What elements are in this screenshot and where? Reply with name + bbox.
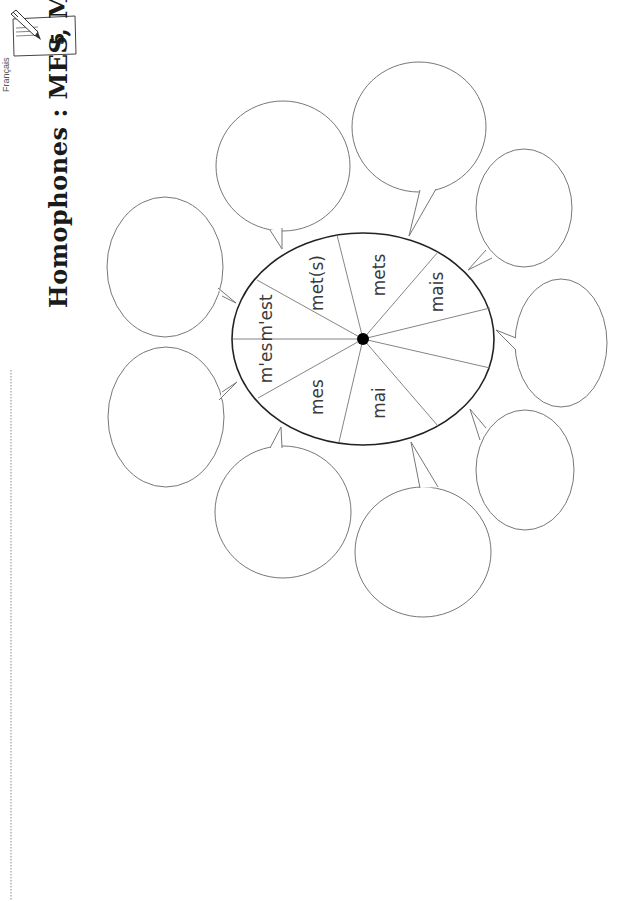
speech-bubble-1[interactable] — [107, 197, 236, 337]
speech-bubble-5[interactable] — [496, 279, 607, 407]
wheel-word-mai: mai — [369, 387, 389, 419]
wheel-word-mais: mais — [427, 272, 447, 313]
speech-bubble-9[interactable] — [108, 347, 237, 487]
speech-bubble-4[interactable] — [468, 149, 572, 270]
worksheet: Français 5 Homophones : MES, MAIS... — [0, 0, 634, 901]
speech-bubble-8[interactable] — [215, 427, 351, 578]
speech-bubble-3[interactable] — [352, 62, 486, 236]
wheel-word-mes: mes — [307, 379, 327, 415]
wheel-word-m-es: m'es — [256, 343, 276, 384]
speech-bubble-2[interactable] — [216, 101, 350, 249]
wheel-word-mets: mets — [369, 254, 389, 297]
wheel-word-m-est: m'est — [256, 294, 276, 342]
speech-bubble-7[interactable] — [355, 442, 491, 617]
wheel-word-met-s: met(s) — [307, 255, 327, 311]
speech-bubble-6[interactable] — [470, 409, 574, 530]
wheel-center — [357, 333, 369, 345]
homophone-wheel: m'est met(s) mets mais mai mes m'es — [232, 233, 494, 445]
homophone-wheel-diagram: m'est met(s) mets mais mai mes m'es — [0, 0, 634, 901]
